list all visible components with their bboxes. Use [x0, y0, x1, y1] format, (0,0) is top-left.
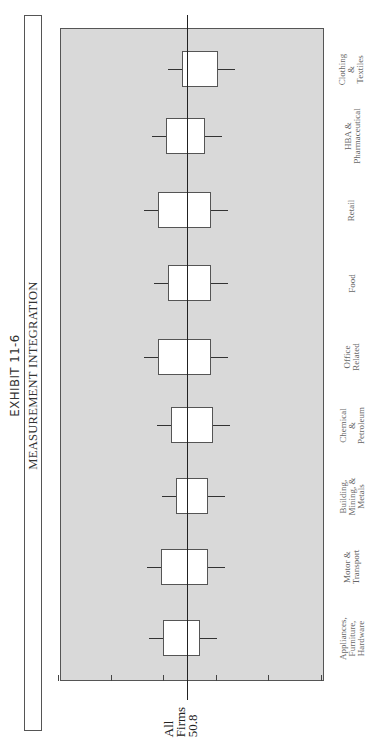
- whisker-low: [211, 283, 228, 284]
- axis-tick: [321, 675, 322, 681]
- box: [158, 339, 211, 375]
- whisker-high: [168, 69, 182, 70]
- category-label: Food: [347, 274, 356, 293]
- category-label-line: Pharmaceutical: [352, 108, 361, 163]
- whisker-high: [154, 283, 168, 284]
- whisker-low: [200, 638, 217, 639]
- whisker-low: [213, 425, 230, 426]
- whisker-high: [144, 357, 158, 358]
- box: [171, 407, 213, 443]
- category-label: Clothing&Textiles: [338, 53, 365, 85]
- axis-tick: [216, 675, 217, 681]
- category-label-line: Textiles: [356, 53, 365, 85]
- reference-line-label: AllFirms50.8: [164, 707, 200, 737]
- category-label: Building,Mining, &Metals: [339, 477, 366, 515]
- category-label: Retail: [347, 199, 356, 221]
- whisker-low: [208, 567, 225, 568]
- whisker-high: [149, 638, 163, 639]
- box: [166, 118, 205, 154]
- whisker-high: [162, 496, 176, 497]
- whisker-low: [205, 136, 222, 137]
- whisker-high: [147, 567, 161, 568]
- category-label-line: Related: [352, 343, 361, 371]
- axis-tick: [163, 675, 164, 681]
- whisker-high: [157, 425, 171, 426]
- category-label: Motor &Transport: [343, 550, 361, 585]
- category-label-line: Food: [347, 274, 356, 293]
- whisker-low: [218, 69, 235, 70]
- whisker-high: [144, 210, 158, 211]
- box: [176, 478, 208, 514]
- category-label-line: Metals: [357, 477, 366, 515]
- category-label: Appliances,Furniture,Hardware: [338, 617, 365, 660]
- chart-title: MEASUREMENT INTEGRATION: [26, 281, 41, 469]
- axis-tick: [58, 675, 59, 681]
- category-label: HBA &Pharmaceutical: [343, 108, 361, 163]
- reference-label-line: 50.8: [188, 707, 200, 737]
- category-label-line: Petroleum: [357, 407, 366, 444]
- box: [168, 265, 210, 301]
- whisker-low: [211, 357, 228, 358]
- box: [163, 620, 200, 656]
- whisker-high: [152, 136, 166, 137]
- box: [161, 549, 208, 585]
- axis-tick: [268, 675, 269, 681]
- exhibit-label: EXHIBIT 11-6: [6, 334, 21, 417]
- axis-tick: [111, 675, 112, 681]
- category-label-line: Hardware: [356, 617, 365, 660]
- whisker-low: [208, 496, 225, 497]
- category-label-line: Transport: [352, 550, 361, 585]
- category-label: OfficeRelated: [343, 343, 361, 371]
- category-label: Chemical&Petroleum: [339, 407, 366, 444]
- category-label-line: Retail: [347, 199, 356, 221]
- reference-line: [187, 15, 188, 700]
- box: [158, 192, 211, 228]
- whisker-low: [211, 210, 228, 211]
